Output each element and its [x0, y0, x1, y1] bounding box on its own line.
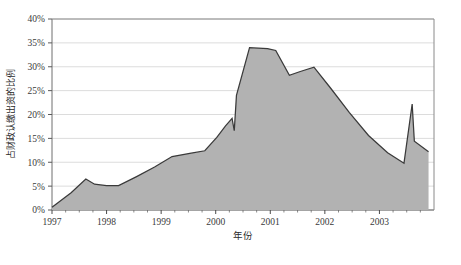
- y-tick-label: 25%: [28, 86, 46, 96]
- y-tick-label: 5%: [32, 182, 45, 192]
- y-tick-label: 35%: [28, 38, 46, 48]
- x-tick-label: 1999: [152, 217, 171, 227]
- x-tick-label: 2000: [206, 217, 225, 227]
- x-tick-label: 2001: [261, 217, 280, 227]
- y-tick-label: 30%: [28, 62, 46, 72]
- y-axis-title: 占财政认缴出资的比例: [5, 69, 16, 159]
- y-tick-label: 40%: [28, 14, 46, 24]
- y-tick-label: 0%: [32, 205, 45, 215]
- y-tick-label: 20%: [28, 110, 46, 120]
- chart-container: 0%5%10%15%20%25%30%35%40% 19971998199920…: [0, 0, 461, 265]
- area-chart: 0%5%10%15%20%25%30%35%40% 19971998199920…: [0, 0, 461, 265]
- y-tick-label: 10%: [28, 158, 46, 168]
- x-tick-label: 1998: [97, 217, 116, 227]
- y-tick-label: 15%: [28, 134, 46, 144]
- x-tick-label: 2002: [315, 217, 334, 227]
- x-axis-title: 年份: [233, 230, 253, 241]
- x-tick-label: 1997: [43, 217, 62, 227]
- x-tick-label: 2003: [370, 217, 389, 227]
